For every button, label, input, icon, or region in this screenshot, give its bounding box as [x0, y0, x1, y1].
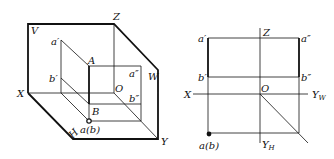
- label-b-dprime: b″: [129, 93, 139, 104]
- label-x: X: [183, 89, 192, 100]
- label-a-prime: a′: [51, 36, 60, 47]
- label-z: Z: [262, 27, 271, 38]
- label-yw: YW: [312, 89, 327, 102]
- left-3d-box: [28, 24, 158, 139]
- right-orthographic: [193, 28, 308, 143]
- label-w: W: [148, 71, 159, 82]
- label-z: Z: [112, 11, 121, 22]
- point-ab-marker: [87, 119, 91, 123]
- label-ab: a(b): [199, 140, 219, 151]
- label-b: B: [91, 106, 99, 117]
- label-b-prime: b′: [49, 73, 58, 84]
- label-a-dprime: a″: [129, 68, 139, 79]
- 45-degree-line: [260, 94, 308, 143]
- label-a: A: [87, 55, 95, 66]
- label-b-dprime: b″: [301, 72, 311, 83]
- label-a-dprime: a″: [301, 33, 311, 44]
- label-o: O: [261, 83, 269, 94]
- label-y: Y: [161, 136, 169, 147]
- point-ab-dot: [207, 132, 212, 137]
- v-plane-outline: [28, 24, 158, 139]
- b-prime-to-b: [61, 78, 89, 104]
- label-v: V: [31, 25, 40, 36]
- a-prime-to-a: [61, 40, 89, 66]
- label-ab: a(b): [80, 124, 100, 135]
- label-yh: YH: [262, 139, 276, 152]
- x-to-ab: [61, 93, 89, 121]
- label-b-prime: b′: [198, 72, 207, 83]
- label-o: O: [115, 83, 123, 94]
- label-x: X: [16, 88, 25, 99]
- label-a-prime: a′: [198, 33, 207, 44]
- projection-diagram: V Z W X Y H O A B a′ b′ a″ b″ a(b) Z X O…: [0, 0, 334, 159]
